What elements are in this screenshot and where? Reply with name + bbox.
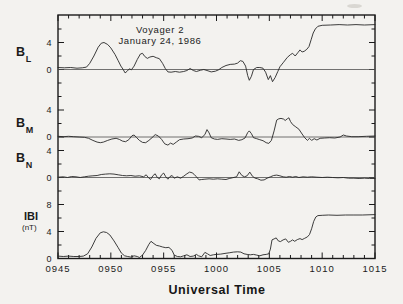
- trace-|B|: [58, 215, 375, 258]
- panel-label-bl: BL: [16, 45, 31, 62]
- y-tick-label: 0: [46, 132, 52, 142]
- y-tick-label: 4: [46, 146, 52, 156]
- annotation-date: January 24, 1986: [118, 36, 201, 47]
- panel-label-bn: BN: [16, 151, 32, 168]
- y-tick-label: 4: [46, 38, 52, 48]
- x-tick-label: 1015: [362, 263, 387, 274]
- x-axis-title: Universal Time: [168, 283, 265, 297]
- x-tick-label: 1010: [310, 263, 335, 274]
- x-tick-label: 1000: [204, 263, 229, 274]
- plot-annotation: Voyager 2 January 24, 1986: [118, 25, 201, 46]
- y-tick-label: 4: [46, 105, 52, 115]
- y-tick-label: 0: [46, 65, 52, 75]
- panel-label-bm: BM: [16, 116, 33, 133]
- y-tick-label: 4: [46, 227, 52, 237]
- x-tick-label: 1005: [257, 263, 282, 274]
- trace-B_N: [58, 172, 375, 180]
- trace-B_M: [58, 118, 375, 145]
- panel-label-bmag: IBI (nT): [24, 212, 38, 232]
- figure-voyager2-magnetogram: 0404040480945095009551000100510101015 Vo…: [0, 0, 403, 304]
- trace-B_L: [58, 25, 375, 82]
- annotation-spacecraft: Voyager 2: [118, 25, 201, 36]
- x-tick-label: 0945: [45, 263, 70, 274]
- y-tick-label: 0: [46, 173, 52, 183]
- x-tick-label: 0955: [151, 263, 176, 274]
- x-tick-label: 0950: [98, 263, 123, 274]
- y-tick-label: 8: [46, 200, 52, 210]
- scan-artifact: [347, 4, 362, 8]
